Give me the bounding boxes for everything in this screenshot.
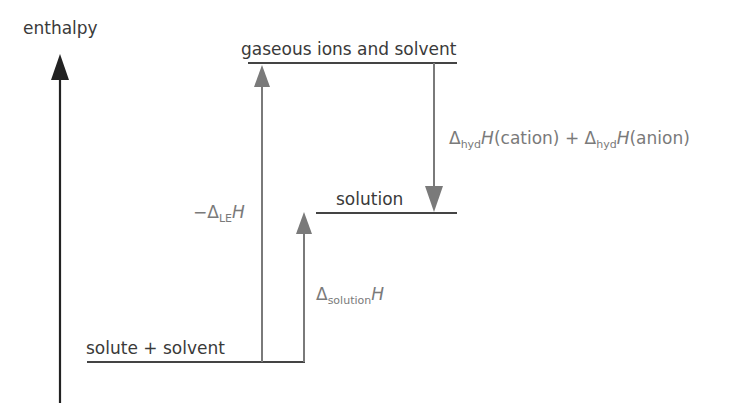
hydration-enthalpy-label: ΔhydH(cation) + ΔhydH(anion) [449, 128, 690, 148]
solution-subscript: solution [328, 294, 372, 307]
solution-symbol: H [371, 284, 384, 304]
hyd-delta-2: Δ [585, 128, 597, 148]
hyd-symbol-2: H [617, 128, 630, 148]
enthalpy-axis-label: enthalpy [23, 18, 98, 38]
lattice-enthalpy-arrow [254, 65, 270, 362]
enthalpy-axis [51, 54, 69, 403]
lattice-prefix: −Δ [193, 202, 219, 222]
level-label-solution: solution [336, 189, 403, 209]
solution-enthalpy-arrow [296, 212, 312, 362]
lattice-symbol: H [232, 202, 245, 222]
hyd-delta-1: Δ [449, 128, 461, 148]
level-label-solute-solvent: solute + solvent [86, 338, 225, 358]
solution-delta: Δ [316, 284, 328, 304]
hyd-symbol-1: H [481, 128, 494, 148]
hyd-arg-1: (cation) + [494, 128, 585, 148]
hyd-sub-1: hyd [461, 138, 481, 151]
level-label-gaseous-ions: gaseous ions and solvent [241, 39, 456, 59]
lattice-subscript: LE [219, 212, 232, 225]
hyd-sub-2: hyd [596, 138, 616, 151]
hyd-arg-2: (anion) [629, 128, 689, 148]
solution-enthalpy-label: ΔsolutionH [316, 284, 384, 304]
hydration-enthalpy-arrow [425, 63, 443, 212]
lattice-enthalpy-label: −ΔLEH [193, 202, 245, 222]
